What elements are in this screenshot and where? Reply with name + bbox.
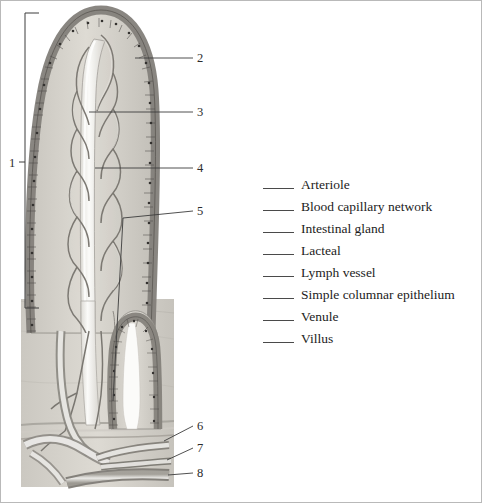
list-item[interactable]: Lacteal (263, 243, 479, 265)
list-item[interactable]: Venule (263, 309, 479, 331)
answer-blank-villus[interactable] (263, 331, 294, 343)
answer-blank-venule[interactable] (263, 309, 294, 321)
answer-blank-arteriole[interactable] (263, 177, 294, 189)
label-number-1: 1 (9, 157, 15, 170)
label-number-6: 6 (197, 420, 203, 433)
villus-diagram: 1 2 3 4 5 6 7 8 (1, 1, 251, 503)
term-label: Lymph vessel (301, 265, 376, 281)
worksheet-page: 1 2 3 4 5 6 7 8 Arteriole Blood capillar… (0, 0, 482, 503)
list-item[interactable]: Blood capillary network (263, 199, 479, 221)
term-label: Intestinal gland (301, 221, 385, 237)
label-number-3: 3 (197, 106, 203, 119)
term-answer-list: Arteriole Blood capillary network Intest… (263, 177, 479, 353)
label-number-4: 4 (197, 162, 203, 175)
term-label: Blood capillary network (301, 199, 432, 215)
label-number-5: 5 (197, 205, 203, 218)
term-label: Venule (301, 309, 339, 325)
term-label: Lacteal (301, 243, 341, 259)
answer-blank-simple-columnar-epithelium[interactable] (263, 287, 294, 299)
answer-blank-lymph-vessel[interactable] (263, 265, 294, 277)
answer-blank-intestinal-gland[interactable] (263, 221, 294, 233)
list-item[interactable]: Lymph vessel (263, 265, 479, 287)
label-number-2: 2 (197, 52, 203, 65)
answer-blank-lacteal[interactable] (263, 243, 294, 255)
list-item[interactable]: Arteriole (263, 177, 479, 199)
term-label: Villus (301, 331, 333, 347)
list-item[interactable]: Villus (263, 331, 479, 353)
term-label: Arteriole (301, 177, 350, 193)
label-number-7: 7 (197, 442, 203, 455)
answer-blank-blood-capillary-network[interactable] (263, 199, 294, 211)
list-item[interactable]: Intestinal gland (263, 221, 479, 243)
villus-illustration (1, 1, 251, 503)
label-number-8: 8 (197, 467, 203, 480)
term-label: Simple columnar epithelium (301, 287, 455, 303)
list-item[interactable]: Simple columnar epithelium (263, 287, 479, 309)
